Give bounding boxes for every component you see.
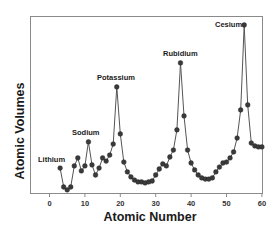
- data-point-marker: [111, 142, 116, 147]
- data-point-marker: [79, 169, 84, 174]
- data-point-marker: [153, 173, 158, 178]
- x-tick-label: 20: [116, 199, 124, 208]
- data-point-marker: [224, 160, 229, 165]
- data-point-marker: [157, 167, 162, 172]
- data-point-marker: [260, 145, 265, 150]
- data-point-marker: [175, 127, 180, 132]
- data-point-marker: [75, 156, 80, 161]
- data-point-marker: [68, 185, 73, 190]
- data-point-marker: [90, 163, 95, 168]
- annotation-potassium: Potassium: [97, 73, 135, 82]
- data-point-marker: [235, 136, 240, 141]
- data-point-marker: [185, 148, 190, 153]
- data-point-marker: [217, 165, 222, 170]
- annotation-cesium: Cesium: [215, 20, 242, 29]
- data-point-marker: [104, 159, 109, 164]
- data-point-marker: [97, 166, 102, 171]
- data-point-marker: [118, 132, 123, 137]
- data-point-marker: [107, 153, 112, 158]
- data-point-marker: [171, 148, 176, 153]
- data-point-marker: [242, 23, 247, 28]
- data-point-marker: [150, 179, 155, 184]
- data-point-marker: [83, 163, 88, 168]
- data-point-marker: [86, 139, 91, 144]
- x-tick-label: 50: [222, 199, 230, 208]
- data-point-marker: [245, 103, 250, 108]
- data-point-marker: [114, 85, 119, 90]
- x-tick-label: 30: [152, 199, 160, 208]
- data-point-marker: [121, 160, 126, 165]
- x-tick-label: 40: [187, 199, 195, 208]
- plot-frame: [31, 17, 263, 194]
- data-point-marker: [228, 156, 233, 161]
- data-point-marker: [238, 108, 243, 113]
- data-point-marker: [231, 150, 236, 155]
- annotation-sodium: Sodium: [72, 128, 100, 137]
- data-point-marker: [58, 166, 63, 171]
- x-tick-label: 10: [81, 199, 89, 208]
- data-point-marker: [72, 163, 77, 168]
- data-point-marker: [93, 173, 98, 178]
- annotation-lithium: Lithium: [38, 155, 65, 164]
- data-point-marker: [189, 161, 194, 166]
- x-tick-label: 60: [258, 199, 266, 208]
- data-point-marker: [182, 114, 187, 119]
- data-point-marker: [164, 163, 169, 168]
- x-axis-tick-labels: 0102030405060: [47, 199, 266, 208]
- data-point-marker: [210, 175, 215, 180]
- data-point-marker: [125, 169, 130, 174]
- data-point-marker: [167, 155, 172, 160]
- data-point-marker: [178, 61, 183, 66]
- data-point-marker: [192, 168, 197, 173]
- x-tick-label: 0: [47, 199, 51, 208]
- y-axis-title: Atomic Volumes: [13, 82, 27, 179]
- data-point-marker: [213, 169, 218, 174]
- x-axis-title: Atomic Number: [103, 210, 196, 224]
- atomic-volume-chart: 0102030405060 Lithium Sodium Potassium R…: [0, 0, 278, 232]
- annotation-rubidium: Rubidium: [163, 49, 198, 58]
